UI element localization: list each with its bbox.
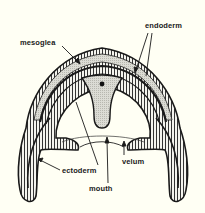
label-mouth: mouth [89, 184, 112, 193]
label-mesoglea: mesoglea [20, 38, 55, 47]
label-endoderm: endoderm [145, 21, 182, 30]
label-velum: velum [122, 157, 144, 166]
nucleus [100, 82, 105, 87]
diagram-canvas: mesoglea endoderm ectoderm velum mouth [0, 0, 205, 213]
medusa-diagram [0, 0, 205, 213]
label-ectoderm: ectoderm [62, 166, 97, 175]
